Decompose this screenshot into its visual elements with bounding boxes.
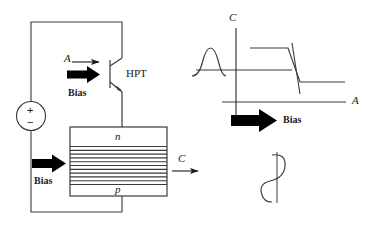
output-sine-waveform <box>261 155 285 202</box>
figure-root: + − A Bias HPT n p Bias C C A Bias <box>0 0 379 235</box>
output-signal-label: C <box>178 153 185 164</box>
source-plus-symbol: + <box>27 105 33 116</box>
emitter-arrowhead <box>116 85 121 90</box>
mqw-p-region-label: p <box>115 184 121 195</box>
transistor-bias-label: Bias <box>68 88 86 98</box>
modulator-bias-arrow <box>32 155 66 173</box>
hpt-transistor-symbol <box>110 58 122 127</box>
hpt-label: HPT <box>126 68 147 79</box>
transistor-bias-arrow <box>67 66 100 83</box>
mqw-n-region-label: n <box>115 131 121 142</box>
plot-x-axis-label: A <box>352 95 359 106</box>
input-signal-label: A <box>64 53 71 64</box>
modulator-bias-label: Bias <box>34 176 52 186</box>
plot-y-axis-label: C <box>229 12 236 23</box>
diagram-canvas <box>0 0 379 235</box>
plot-bias-arrow <box>231 109 277 132</box>
source-minus-symbol: − <box>27 117 33 128</box>
input-sine-waveform <box>192 48 226 76</box>
plot-bias-label: Bias <box>283 115 301 125</box>
transition-slope-line <box>292 43 300 94</box>
